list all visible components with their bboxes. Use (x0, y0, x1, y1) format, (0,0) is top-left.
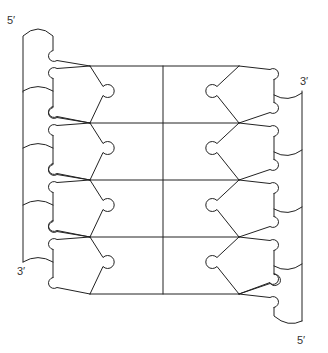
sugar-notch (48, 123, 90, 136)
sugar-base-attachment (206, 237, 239, 294)
phosphate-arc (23, 201, 53, 206)
right-backbone-bottom-cap (274, 308, 302, 324)
sugar-notch (239, 103, 279, 124)
sugar-notch (48, 66, 90, 79)
sugar-notch (48, 165, 90, 181)
sugar-notch (48, 51, 90, 67)
sugar-notch (239, 217, 279, 238)
sugar-notch (239, 123, 279, 137)
phosphate-arc (23, 144, 53, 149)
sugar-notch (239, 294, 279, 308)
sugar-base-attachment (90, 180, 114, 237)
sugar-base-attachment (90, 123, 114, 180)
sugar-notch (48, 278, 90, 295)
sugar-notch (48, 108, 90, 124)
sugar-notch (239, 180, 279, 194)
base-pair-rungs (90, 66, 239, 294)
phosphate-arc (23, 87, 53, 92)
sugar-notch (48, 222, 90, 238)
sugar-notch (48, 164, 90, 181)
sugar-base-attachment (90, 237, 114, 294)
sugar-base-attachment (206, 180, 239, 237)
sugar-base-attachment (206, 123, 239, 180)
sugar-notch (239, 237, 279, 251)
left-strand (23, 29, 114, 294)
sugar-notch (239, 274, 279, 295)
dna-double-helix-diagram (0, 0, 328, 353)
phosphate-arc (274, 150, 302, 156)
sugar-notch (239, 160, 279, 181)
phosphate-arc (274, 264, 302, 270)
phosphate-arc (23, 258, 53, 263)
label-right-5prime: 5′ (297, 335, 305, 346)
phosphate-arc (274, 93, 302, 99)
sugar-notch (48, 107, 90, 124)
right-strand (206, 66, 302, 324)
sugar-base-attachment (90, 66, 114, 123)
sugar-notch (48, 237, 90, 250)
phosphate-arc (274, 207, 302, 213)
label-right-3prime: 3′ (300, 76, 308, 87)
sugar-base-attachment (206, 66, 239, 123)
left-backbone-top-cap (23, 29, 53, 92)
sugar-notch (48, 180, 90, 193)
sugar-notch (239, 66, 279, 80)
sugar-notch (48, 221, 90, 238)
label-left-5prime: 5′ (7, 15, 15, 26)
label-left-3prime: 3′ (17, 266, 25, 277)
